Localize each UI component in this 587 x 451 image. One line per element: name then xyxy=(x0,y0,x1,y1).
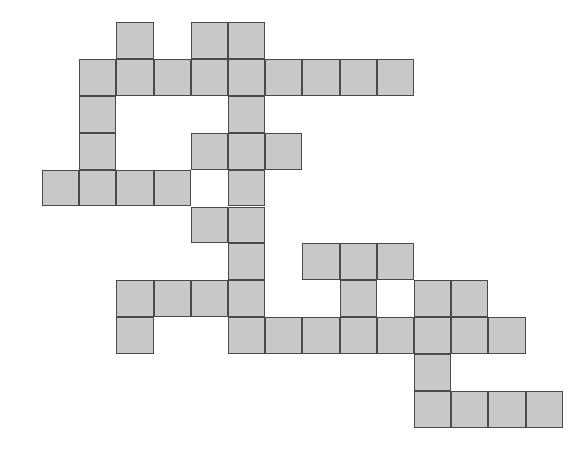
grid-cell xyxy=(79,133,116,170)
grid-cell xyxy=(340,59,377,96)
grid-cell xyxy=(414,391,451,428)
grid-cell xyxy=(228,280,265,317)
grid-cell xyxy=(228,133,265,170)
grid-cell xyxy=(228,96,265,133)
grid-cell xyxy=(302,59,339,96)
grid-cell xyxy=(265,133,302,170)
grid-cell xyxy=(451,391,488,428)
grid-cell xyxy=(265,317,302,354)
grid-cell xyxy=(228,207,265,244)
grid-cell xyxy=(191,59,228,96)
grid-cell xyxy=(414,280,451,317)
grid-cell xyxy=(116,280,153,317)
grid-cell xyxy=(191,133,228,170)
grid-cell xyxy=(377,317,414,354)
grid-cell xyxy=(154,170,191,207)
polyomino-grid xyxy=(0,0,587,451)
grid-cell xyxy=(228,22,265,59)
grid-cell xyxy=(414,354,451,391)
grid-cell xyxy=(79,96,116,133)
grid-cell xyxy=(228,170,265,207)
grid-cell xyxy=(451,280,488,317)
grid-cell xyxy=(154,280,191,317)
grid-cell xyxy=(228,317,265,354)
grid-cell xyxy=(191,280,228,317)
grid-cell xyxy=(79,59,116,96)
figure-canvas xyxy=(0,0,587,451)
grid-cell xyxy=(116,170,153,207)
grid-cell xyxy=(377,59,414,96)
grid-cell xyxy=(451,317,488,354)
grid-cell xyxy=(302,243,339,280)
grid-cell xyxy=(42,170,79,207)
grid-cell xyxy=(488,317,525,354)
grid-cell xyxy=(191,22,228,59)
grid-cell xyxy=(526,391,563,428)
grid-cell xyxy=(79,170,116,207)
grid-cell xyxy=(116,317,153,354)
grid-cell xyxy=(228,243,265,280)
grid-cell xyxy=(377,243,414,280)
grid-cell xyxy=(340,280,377,317)
grid-cell xyxy=(154,59,191,96)
grid-cell xyxy=(228,59,265,96)
grid-cell xyxy=(340,317,377,354)
grid-cell xyxy=(265,59,302,96)
grid-cell xyxy=(116,59,153,96)
grid-cell xyxy=(191,207,228,244)
grid-cell xyxy=(414,317,451,354)
grid-cell xyxy=(488,391,525,428)
grid-cell xyxy=(302,317,339,354)
grid-cell xyxy=(340,243,377,280)
grid-cell xyxy=(116,22,153,59)
